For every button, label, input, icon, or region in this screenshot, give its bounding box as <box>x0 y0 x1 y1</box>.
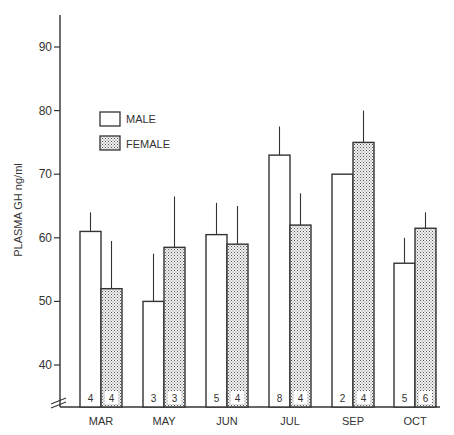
legend-male-swatch <box>100 112 120 126</box>
male-bar <box>394 263 415 407</box>
bar-chart: 405060708090 44MAR33MAY54JUN84JUL24SEP56… <box>0 0 454 435</box>
x-category-label: JUL <box>280 415 300 427</box>
sample-size-label: 3 <box>172 393 178 404</box>
bar-group-mar: 44MAR <box>80 212 122 427</box>
sample-size-label: 5 <box>214 393 220 404</box>
x-category-label: MAY <box>152 415 176 427</box>
legend-male-label: MALE <box>126 113 156 125</box>
sample-size-label: 4 <box>109 393 115 404</box>
y-axis-label: PLASMA GH ng/ml <box>12 163 24 257</box>
x-category-label: JUN <box>216 415 237 427</box>
sample-size-label: 4 <box>88 393 94 404</box>
male-bar <box>206 235 227 407</box>
sample-size-label: 5 <box>402 393 408 404</box>
bar-group-jun: 54JUN <box>206 203 248 427</box>
bar-group-sep: 24SEP <box>332 111 374 427</box>
sample-size-label: 4 <box>298 393 304 404</box>
bars: 44MAR33MAY54JUN84JUL24SEP56OCT <box>80 111 436 427</box>
x-category-label: MAR <box>89 415 114 427</box>
female-bar <box>101 289 122 407</box>
sample-size-label: 2 <box>340 393 346 404</box>
y-tick-label: 40 <box>39 358 53 372</box>
female-bar <box>227 244 248 407</box>
y-tick-label: 70 <box>39 167 53 181</box>
female-bar <box>353 142 374 407</box>
bar-group-oct: 56OCT <box>394 212 436 427</box>
y-tick-label: 90 <box>39 40 53 54</box>
female-bar <box>415 228 436 407</box>
sample-size-label: 8 <box>277 393 283 404</box>
sample-size-label: 3 <box>151 393 157 404</box>
sample-size-label: 6 <box>423 393 429 404</box>
female-bar <box>164 247 185 407</box>
bar-group-may: 33MAY <box>143 196 185 427</box>
legend-female-swatch <box>100 136 120 150</box>
male-bar <box>269 155 290 407</box>
legend-female-label: FEMALE <box>126 138 170 150</box>
male-bar <box>143 301 164 407</box>
y-tick-label: 60 <box>39 231 53 245</box>
x-category-label: OCT <box>403 415 427 427</box>
legend: MALEFEMALE <box>100 112 170 150</box>
y-tick-label: 80 <box>39 104 53 118</box>
male-bar <box>332 174 353 407</box>
male-bar <box>80 231 101 407</box>
x-category-label: SEP <box>342 415 364 427</box>
bar-group-jul: 84JUL <box>269 127 311 428</box>
sample-size-label: 4 <box>235 393 241 404</box>
y-tick-label: 50 <box>39 294 53 308</box>
sample-size-label: 4 <box>361 393 367 404</box>
female-bar <box>290 225 311 407</box>
